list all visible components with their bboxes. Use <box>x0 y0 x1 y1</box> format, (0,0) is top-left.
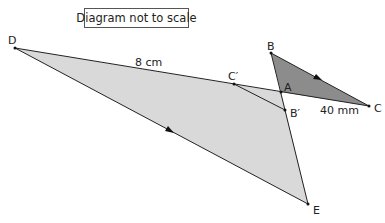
label-A: A <box>284 81 292 94</box>
measurement-DA: 8 cm <box>135 56 162 69</box>
label-B: B <box>267 40 275 53</box>
label-B-prime: B′ <box>290 107 301 120</box>
label-E: E <box>313 204 320 217</box>
label-C: C <box>374 102 382 115</box>
measurement-AC: 40 mm <box>320 104 359 117</box>
parallel-arrow-BC-icon <box>313 74 322 80</box>
similar-triangles-diagram: D B A C′ B′ C E 8 cm 40 mm <box>0 0 385 223</box>
label-C-prime: C′ <box>228 70 239 83</box>
label-D: D <box>8 34 16 47</box>
